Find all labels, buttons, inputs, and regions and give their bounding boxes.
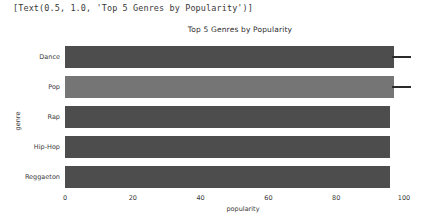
x-tick-label: 40 <box>196 194 204 202</box>
bar <box>65 46 394 68</box>
bar-end-marker <box>392 56 412 58</box>
bar <box>65 76 394 98</box>
bar-row: Dance <box>65 46 421 68</box>
x-axis-label: popularity <box>65 205 421 213</box>
x-tick-label: 0 <box>63 194 67 202</box>
y-tick-label: Pop <box>48 83 60 91</box>
x-tick-label: 80 <box>332 194 340 202</box>
x-tick-label: 60 <box>264 194 272 202</box>
y-tick-label: Dance <box>39 53 60 61</box>
matplotlib-figure: Top 5 Genres by Popularity genre DancePo… <box>0 20 443 222</box>
plot-area: DancePopRapHip-HopReggaeton <box>65 42 421 192</box>
chart-title: Top 5 Genres by Popularity <box>65 25 415 34</box>
y-tick-label: Rap <box>48 113 60 121</box>
console-repr-text: [Text(0.5, 1.0, 'Top 5 Genres by Popular… <box>13 3 253 13</box>
y-tick-label: Reggaeton <box>25 173 60 181</box>
y-axis-label: genre <box>14 112 22 131</box>
bar <box>65 166 390 188</box>
bar <box>65 136 390 158</box>
bar-end-marker <box>392 86 412 88</box>
bar-row: Hip-Hop <box>65 136 421 158</box>
bar-row: Pop <box>65 76 421 98</box>
bar-row: Rap <box>65 106 421 128</box>
x-tick-label: 100 <box>398 194 410 202</box>
x-tick-label: 20 <box>129 194 137 202</box>
bar-row: Reggaeton <box>65 166 421 188</box>
y-tick-label: Hip-Hop <box>34 143 60 151</box>
x-axis: 020406080100 <box>65 192 421 204</box>
bar <box>65 106 390 128</box>
